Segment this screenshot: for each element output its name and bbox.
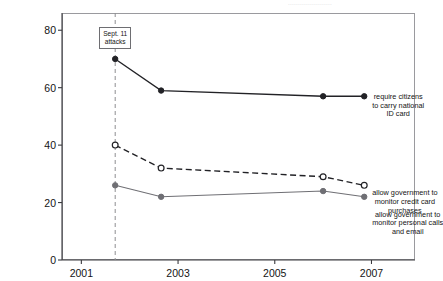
- series-1-datapoint: [158, 88, 163, 93]
- series-line-2: [115, 145, 364, 185]
- series-3-datapoint: [112, 183, 117, 188]
- series-label-1-line-3: ID card: [372, 110, 424, 119]
- series-2-datapoint: [158, 165, 164, 171]
- series-line-3: [115, 185, 364, 196]
- y-tick-label: 40: [44, 139, 56, 151]
- series-1-datapoint: [320, 94, 325, 99]
- y-tick-label: 0: [50, 254, 56, 266]
- y-tick-label: 20: [44, 197, 56, 209]
- series-3-datapoint: [158, 194, 163, 199]
- series-label-3-line-3: and email: [372, 228, 443, 237]
- sept-11-annotation-line-2: attacks: [103, 38, 127, 46]
- y-axis-title: percent of respondents supporting restri…: [9, 0, 35, 39]
- series-1-datapoint: [362, 94, 367, 99]
- series-2-datapoint: [361, 182, 367, 188]
- series-2-datapoint: [320, 174, 326, 180]
- x-tick-label: 2005: [263, 267, 286, 279]
- x-tick-label: 2003: [166, 267, 189, 279]
- plot-area: 0204060802001200320052007Sept. 11attacks…: [62, 13, 415, 260]
- y-tick-label: 80: [44, 24, 56, 36]
- series-label-3: allow government tomonitor personal call…: [372, 211, 443, 237]
- sept-11-annotation-line-1: Sept. 11: [103, 30, 127, 38]
- series-1-datapoint: [112, 56, 117, 61]
- series-line-1: [115, 59, 364, 96]
- sept-11-annotation-box: Sept. 11attacks: [99, 27, 131, 49]
- faint-header-text: ......................: [205, 0, 415, 7]
- series-3-datapoint: [320, 188, 325, 193]
- plot-svg: [62, 13, 415, 260]
- series-3-datapoint: [362, 194, 367, 199]
- y-tick-label: 60: [44, 82, 56, 94]
- series-label-1: require citizensto carry nationalID card: [372, 93, 424, 119]
- x-tick-label: 2001: [70, 267, 93, 279]
- series-2-datapoint: [112, 142, 118, 148]
- x-tick-label: 2007: [360, 267, 383, 279]
